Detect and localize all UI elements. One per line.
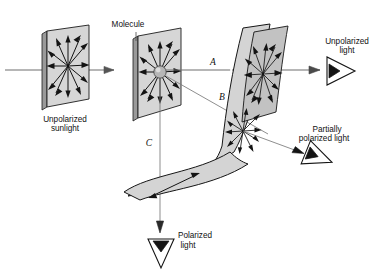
arrowhead-ray-a [309, 66, 320, 74]
molecule-label: Molecule [112, 20, 145, 29]
arrowhead-incoming [104, 66, 114, 73]
eye-partially-polarized [301, 141, 336, 175]
arrowhead-ray-c [156, 221, 163, 233]
diagram-canvas: Unpolarized sunlight Molecule [0, 0, 378, 275]
partially-polarized-label-group: Partially polarized light [299, 125, 350, 143]
unpolarized-light-label-line2: light [339, 46, 355, 55]
polarized-light-label-line1: Polarized [178, 231, 213, 240]
polarized-light-label-line2: light [180, 241, 196, 250]
partially-polarized-label-line1: Partially [312, 125, 342, 134]
unpolarized-sunlight-label-line1: Unpolarized [43, 115, 87, 124]
ray-b-label: B [219, 92, 225, 102]
molecule-sphere [154, 66, 166, 78]
ray-c-label: C [146, 138, 153, 148]
partially-polarized-label-line2: polarized light [299, 134, 350, 143]
scattering-polarization-diagram: Unpolarized sunlight Molecule [0, 0, 378, 275]
incident-unpolarized-plane: Unpolarized sunlight [42, 25, 90, 133]
arrowhead-side-scatter [292, 147, 304, 154]
molecule-highlight [156, 68, 161, 73]
down-scatter-plane [124, 152, 248, 200]
ray-a-label: A [209, 57, 216, 67]
eye-unpolarized: Unpolarized light [325, 37, 369, 85]
unpolarized-sunlight-label-line2: sunlight [51, 124, 80, 133]
eye-polarized: Polarized light [148, 231, 213, 268]
unpolarized-light-label-line1: Unpolarized [325, 37, 369, 46]
